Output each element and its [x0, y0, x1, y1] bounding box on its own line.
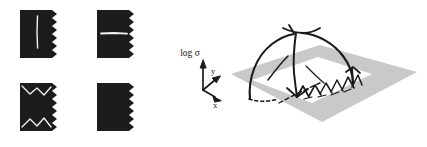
- panel-bottom-left: [20, 83, 57, 131]
- panel-bottom-right-body: [97, 83, 134, 131]
- panel-bottom-right: [97, 83, 134, 131]
- axis-label-log-sigma: log σ: [180, 48, 200, 58]
- base-post-right: [352, 68, 353, 84]
- panel-top-right-crack-horizontal: [101, 33, 127, 34]
- figure-root: log σ y x: [0, 0, 427, 147]
- panel-top-left-body: [20, 10, 57, 58]
- panel-top-left: [20, 10, 57, 58]
- panel-top-left-crack-vertical: [37, 16, 38, 48]
- panel-top-right: [97, 10, 134, 58]
